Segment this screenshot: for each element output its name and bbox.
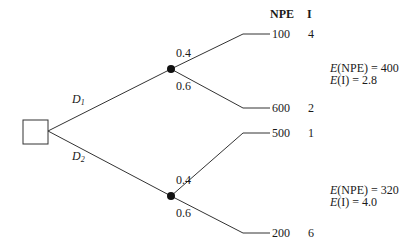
tree-lines [0,0,414,252]
decision-label-d2-letter: D [72,149,81,163]
i-value-4: 6 [308,227,314,239]
chance-node-2 [167,192,175,200]
decision-label-d1: D1 [72,93,85,109]
probability-d1-1: 0.4 [176,47,191,59]
npe-value-3: 500 [272,127,290,139]
branch-d1 [48,69,171,131]
header-npe: NPE [270,8,294,20]
decision-label-d2-subscript: 2 [81,155,85,164]
probability-d2-1: 0.4 [176,174,191,186]
header-i: I [307,8,312,20]
decision-label-d1-subscript: 1 [81,98,85,107]
expected-i-d1: E(I) = 2.8 [330,74,377,86]
decision-label-d1-letter: D [72,92,81,106]
probability-d2-2: 0.6 [176,207,191,219]
npe-value-2: 600 [272,102,290,114]
i-value-3: 1 [308,127,314,139]
i-value-2: 2 [308,102,314,114]
expected-i-d1-text: (I) = 2.8 [337,73,377,87]
i-value-1: 4 [308,28,314,40]
decision-node-square [23,120,48,144]
chance-node-1 [167,65,175,73]
expected-i-d2: E(I) = 4.0 [330,196,377,208]
npe-value-1: 100 [272,28,290,40]
branch-d2 [48,131,171,196]
expected-i-d2-text: (I) = 4.0 [337,195,377,209]
npe-value-4: 200 [272,227,290,239]
decision-label-d2: D2 [72,150,85,166]
probability-d1-2: 0.6 [176,80,191,92]
